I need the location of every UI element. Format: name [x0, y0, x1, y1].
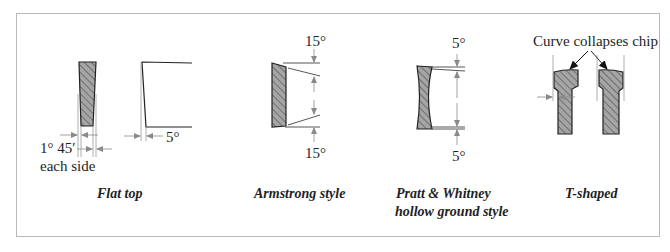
caption-pratt-whitney-line2: hollow ground style [395, 204, 509, 219]
caption-t-shaped: T-shaped [565, 186, 618, 201]
flat-top-side-clearance-value: 1° 45′ [40, 140, 76, 156]
pratt-whitney-top-angle: 5° [452, 35, 466, 51]
flat-top-blade-section [79, 62, 96, 126]
pratt-whitney-blade-section [417, 66, 432, 129]
panel-t-shaped: Curve collapses chip T-shaped [533, 33, 658, 201]
panel-armstrong: 15° 15° Armstrong style [253, 33, 345, 201]
pratt-whitney-bottom-angle: 5° [452, 148, 466, 164]
armstrong-top-angle: 15° [305, 33, 326, 49]
caption-pratt-whitney-line1: Pratt & Whitney [396, 186, 491, 201]
diagram-canvas: 1° 45′ each side 5° Flat top 15° 15° Arm… [0, 0, 670, 252]
armstrong-blade-section [272, 63, 286, 127]
flat-top-side-profile [142, 62, 192, 127]
armstrong-bottom-angle: 15° [305, 145, 326, 161]
panel-pratt-whitney: 5° 5° Pratt & Whitney hollow ground styl… [395, 35, 509, 219]
t-shaped-callout: Curve collapses chip [533, 33, 658, 49]
t-shaped-left-blade-section [554, 70, 578, 134]
t-shaped-right-blade-section [599, 70, 623, 134]
panel-flat-top: 1° 45′ each side 5° Flat top [40, 62, 192, 201]
caption-flat-top: Flat top [96, 186, 143, 201]
flat-top-end-clearance: 5° [166, 129, 180, 145]
caption-armstrong: Armstrong style [253, 186, 345, 201]
flat-top-side-clearance-note: each side [40, 158, 96, 174]
